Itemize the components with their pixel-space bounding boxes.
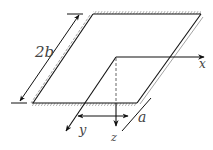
distance-label: a [138,109,146,125]
top-clamped-edge [93,11,201,14]
right-edge [137,14,203,104]
x-axis-label: x [199,57,206,71]
width-label: 2b [34,43,54,61]
plate-diagram: 2b x y z a [0,0,213,150]
y-axis-label: y [78,122,87,137]
y-axis [66,57,116,131]
z-axis-label: z [110,131,117,144]
